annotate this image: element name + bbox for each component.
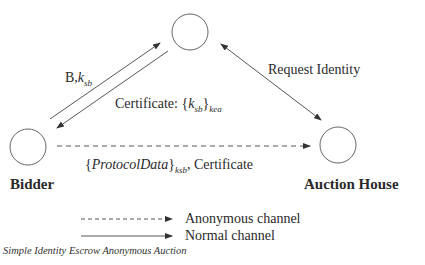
- figure-caption: Simple Identity Escrow Anonymous Auction: [3, 245, 187, 256]
- escrow-node: [172, 14, 208, 50]
- bidder-node: [10, 129, 46, 165]
- escrow-auction-bidirectional-arrow: [221, 44, 321, 120]
- bidder-label: Bidder: [10, 177, 54, 192]
- auction-house-label: Auction House: [304, 177, 399, 192]
- legend-normal-label: Normal channel: [185, 229, 275, 243]
- escrow-to-bidder-arrow: [57, 51, 168, 128]
- edge-label-b-ksb: B,ksb: [65, 71, 92, 88]
- auction-house-node: [320, 127, 356, 163]
- edge-label-request-identity: Request Identity: [268, 63, 360, 77]
- edge-label-certificate: Certificate: {ksb}kea: [115, 97, 222, 114]
- legend-anonymous-label: Anonymous channel: [185, 212, 300, 226]
- edge-label-protocol-data: {ProtocolData}ksb, Certificate: [85, 158, 253, 175]
